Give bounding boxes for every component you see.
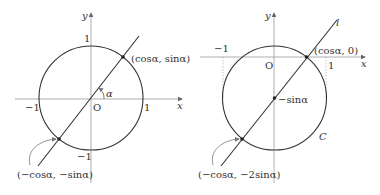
circle-c-label: C bbox=[319, 131, 327, 142]
left-point-upper bbox=[121, 55, 125, 59]
right-origin-label: O bbox=[265, 60, 273, 71]
left-y-label: y bbox=[81, 10, 88, 21]
line-l-label: l bbox=[336, 17, 339, 28]
right-tick-x-neg: −1 bbox=[214, 43, 229, 54]
angle-arc bbox=[99, 88, 104, 99]
right-center-point bbox=[273, 96, 277, 100]
right-tick-x-pos: 1 bbox=[328, 60, 334, 71]
left-point-lower bbox=[57, 137, 61, 141]
line-l bbox=[221, 20, 337, 166]
right-point-upper bbox=[305, 55, 309, 59]
left-figure: y x O 1 −1 1 −1 α (cosα, sinα) (−cosα, −… bbox=[15, 10, 190, 183]
right-y-label: y bbox=[264, 10, 271, 21]
left-point-upper-label: (cosα, sinα) bbox=[131, 53, 190, 64]
left-origin-label: O bbox=[93, 102, 101, 113]
right-point-lower bbox=[240, 137, 244, 141]
right-center-label: −sinα bbox=[278, 94, 308, 105]
right-x-label: x bbox=[361, 58, 367, 69]
left-tick-y-neg: −1 bbox=[77, 151, 92, 162]
diagram-canvas: y x O 1 −1 1 −1 α (cosα, sinα) (−cosα, −… bbox=[0, 0, 380, 195]
left-pointer-arrow bbox=[29, 139, 56, 165]
angle-label: α bbox=[106, 88, 113, 99]
left-tick-y-pos: 1 bbox=[84, 33, 90, 44]
right-pointer-arrow bbox=[212, 139, 239, 165]
left-tick-x-neg: −1 bbox=[25, 102, 40, 113]
left-tick-x-pos: 1 bbox=[144, 102, 150, 113]
right-point-upper-label: (cosα, 0) bbox=[314, 45, 358, 56]
right-point-lower-label: (−cosα, −2sinα) bbox=[198, 169, 280, 180]
left-point-lower-label: (−cosα, −sinα) bbox=[17, 169, 93, 180]
right-figure: y x O −1 1 l C −sinα (cosα, 0) (−cosα, −… bbox=[198, 10, 367, 183]
left-x-label: x bbox=[177, 100, 183, 111]
